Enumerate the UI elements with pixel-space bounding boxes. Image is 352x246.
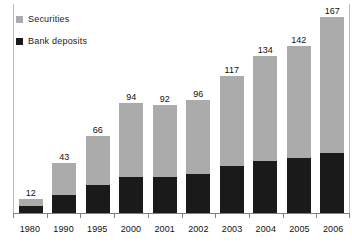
stacked-bar[interactable]: [253, 56, 277, 213]
x-axis-tick: [114, 213, 148, 218]
bar-slot: 12: [14, 4, 48, 213]
bar-slot: 134: [249, 4, 283, 213]
bar-segment-bank-deposits[interactable]: [86, 185, 110, 213]
bar-segment-securities[interactable]: [320, 17, 344, 153]
bar-value-label: 96: [178, 89, 218, 99]
stacked-bar[interactable]: [153, 105, 177, 213]
bar-segment-securities[interactable]: [86, 136, 110, 185]
bar-value-label: 167: [312, 6, 352, 16]
bar-segment-securities[interactable]: [186, 100, 210, 174]
x-axis-label-2000: 2000: [114, 224, 148, 235]
bar-segment-securities[interactable]: [19, 199, 43, 206]
bar-segment-securities[interactable]: [153, 105, 177, 177]
stacked-bar[interactable]: [86, 136, 110, 213]
stacked-bar[interactable]: [52, 163, 76, 213]
bar-value-label: 66: [78, 125, 118, 135]
bar-segment-securities[interactable]: [220, 76, 244, 166]
bar-segment-bank-deposits[interactable]: [153, 177, 177, 213]
bar-slot: 96: [182, 4, 216, 213]
x-axis-label-2003: 2003: [215, 224, 249, 235]
stacked-bar[interactable]: [119, 103, 143, 213]
x-axis-label-2004: 2004: [249, 224, 283, 235]
x-axis-label-1995: 1995: [80, 224, 114, 235]
x-axis-tick: [283, 213, 317, 218]
bar-segment-securities[interactable]: [253, 56, 277, 162]
bar-segment-securities[interactable]: [52, 163, 76, 196]
bar-segment-bank-deposits[interactable]: [186, 174, 210, 213]
x-axis-ticks: [13, 213, 350, 218]
x-axis-category-labels: 1980199019952000200120022003200420052006: [13, 224, 350, 235]
x-axis-label-2001: 2001: [148, 224, 182, 235]
bar-slot: 94: [115, 4, 149, 213]
stacked-bar[interactable]: [19, 199, 43, 213]
bar-slot: 142: [282, 4, 316, 213]
bar-segment-bank-deposits[interactable]: [119, 177, 143, 213]
bar-slot: 66: [81, 4, 115, 213]
x-axis-tick: [148, 213, 182, 218]
bar-value-label: 134: [245, 45, 285, 55]
bar-slot: 167: [316, 4, 350, 213]
bar-segment-bank-deposits[interactable]: [52, 195, 76, 213]
x-axis-tick: [249, 213, 283, 218]
bar-segment-bank-deposits[interactable]: [220, 166, 244, 213]
bar-slot: 92: [148, 4, 182, 213]
x-axis-tick: [215, 213, 249, 218]
bars-container: 124366949296117134142167: [14, 4, 349, 213]
x-axis-label-2005: 2005: [283, 224, 317, 235]
bar-value-label: 12: [11, 188, 51, 198]
bar-segment-bank-deposits[interactable]: [253, 161, 277, 213]
stacked-bar[interactable]: [186, 100, 210, 213]
stacked-bar[interactable]: [320, 17, 344, 213]
bar-segment-bank-deposits[interactable]: [320, 153, 344, 213]
bar-segment-bank-deposits[interactable]: [287, 158, 311, 213]
stacked-bar[interactable]: [220, 76, 244, 213]
stacked-bar-chart: Securities Bank deposits 124366949296117…: [0, 0, 352, 246]
bar-value-label: 43: [44, 152, 84, 162]
x-axis-label-2002: 2002: [182, 224, 216, 235]
bar-segment-securities[interactable]: [119, 103, 143, 177]
bar-value-label: 117: [212, 65, 252, 75]
x-axis-label-1980: 1980: [13, 224, 47, 235]
x-axis-label-2006: 2006: [316, 224, 350, 235]
x-axis-tick: [316, 213, 350, 218]
x-axis-tick: [13, 213, 47, 218]
x-axis-tick: [47, 213, 81, 218]
bar-slot: 43: [48, 4, 82, 213]
x-axis-tick: [80, 213, 114, 218]
bar-slot: 117: [215, 4, 249, 213]
stacked-bar[interactable]: [287, 46, 311, 213]
x-axis-label-1990: 1990: [47, 224, 81, 235]
bar-segment-securities[interactable]: [287, 46, 311, 157]
x-axis-tick: [182, 213, 216, 218]
bar-value-label: 142: [279, 35, 319, 45]
bar-segment-bank-deposits[interactable]: [19, 206, 43, 213]
